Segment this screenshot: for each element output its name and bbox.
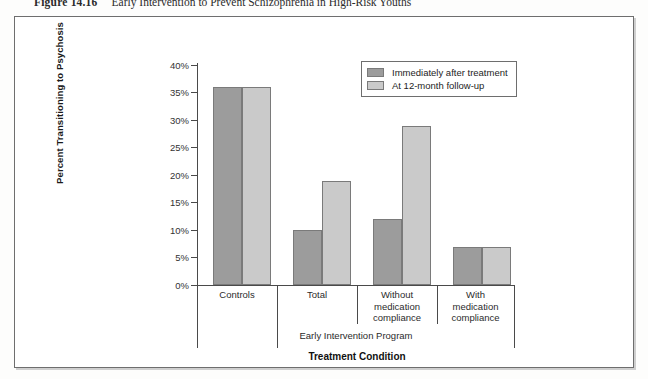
y-tick-label-5: 5% (155, 252, 189, 263)
y-tick-label-10: 10% (155, 225, 189, 236)
bar-controls-immediate (213, 87, 242, 285)
chart-legend: Immediately after treatment At 12-month … (361, 61, 517, 97)
bar-group-controls (207, 65, 277, 285)
bar-group-total (287, 65, 357, 285)
legend-swatch-immediate-icon (367, 68, 384, 77)
y-tick-label-35: 35% (155, 87, 189, 98)
group-label-early-intervention-program: Early Intervention Program (197, 330, 515, 341)
bar-total-followup (322, 181, 351, 286)
category-label-total: Total (277, 289, 357, 301)
legend-swatch-followup-icon (367, 81, 384, 90)
bar-with-immediate (453, 247, 482, 286)
legend-item-immediate: Immediately after treatment (367, 66, 508, 79)
legend-label-followup: At 12-month follow-up (392, 80, 484, 91)
bar-group-with-medication-compliance (447, 65, 517, 285)
bar-total-immediate (293, 230, 322, 285)
legend-item-followup: At 12-month follow-up (367, 79, 508, 92)
y-tick-label-25: 25% (155, 142, 189, 153)
bar-with-followup (482, 247, 511, 286)
category-label-with: Withmedicationcompliance (437, 289, 514, 324)
y-tick-label-30: 30% (155, 115, 189, 126)
chart-frame: Percent Transitioning to Psychosis 40% 3… (14, 16, 634, 368)
y-tick-label-20: 20% (155, 170, 189, 181)
bar-controls-followup (242, 87, 271, 285)
legend-label-immediate: Immediately after treatment (392, 67, 508, 78)
category-label-controls: Controls (197, 289, 277, 301)
figure-caption: Figure 14.16Early Intervention to Preven… (34, 0, 554, 10)
category-label-without: Withoutmedicationcompliance (357, 289, 437, 324)
figure-caption-text: Early Intervention to Prevent Schizophre… (112, 0, 412, 8)
figure-page: Figure 14.16Early Intervention to Preven… (0, 0, 648, 379)
bar-without-immediate (373, 219, 402, 285)
y-tick-label-15: 15% (155, 197, 189, 208)
y-axis-tick-labels: 40% 35% 30% 25% 20% 15% 10% 5% 0% (153, 17, 189, 379)
y-tick-label-40: 40% (155, 60, 189, 71)
y-tick-label-0: 0% (155, 280, 189, 291)
x-axis-title: Treatment Condition (167, 351, 547, 362)
y-axis-title: Percent Transitioning to Psychosis (54, 3, 70, 203)
bar-without-followup (402, 126, 431, 286)
plot-area (197, 65, 515, 285)
bar-group-without-medication-compliance (367, 65, 437, 285)
